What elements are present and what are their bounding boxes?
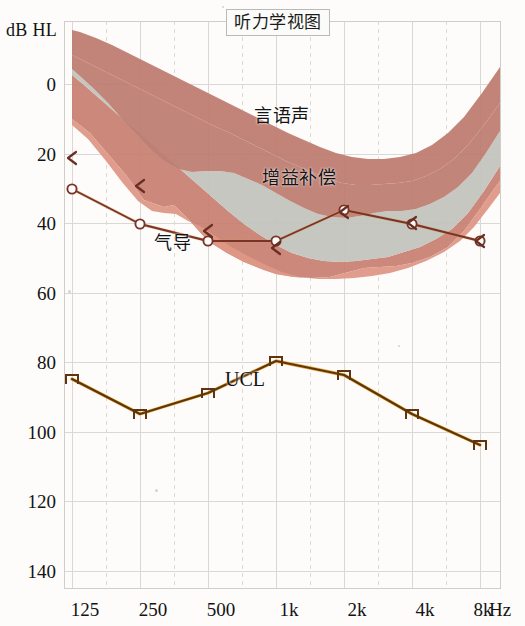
y-tick: 20 <box>4 145 56 164</box>
x-axis-unit-label: Hz <box>489 600 511 619</box>
x-tick: 1k <box>280 600 299 619</box>
audiogram-figure: 言语声 增益补偿 气导 UCL 听力学视图 dB HL 0 20 40 60 8… <box>0 0 525 626</box>
x-tick: 4k <box>416 600 435 619</box>
y-tick: 40 <box>4 214 56 233</box>
y-tick: 140 <box>4 562 56 581</box>
scan-speckle <box>155 489 158 492</box>
y-tick: 80 <box>4 353 56 372</box>
annotation-gain-compensation: 增益补偿 <box>262 163 336 189</box>
x-tick: 250 <box>139 600 168 619</box>
x-tick: 125 <box>71 600 100 619</box>
y-tick: 60 <box>4 284 56 303</box>
x-tick: 2k <box>348 600 367 619</box>
y-tick: 120 <box>4 492 56 511</box>
x-tick: 500 <box>207 600 236 619</box>
scan-speckle <box>68 290 71 293</box>
chart-title: 听力学视图 <box>226 9 330 36</box>
annotation-ucl: UCL <box>225 368 265 391</box>
scan-speckle <box>398 345 400 347</box>
y-axis-ticks: 0 20 40 60 80 100 120 140 <box>0 0 56 626</box>
y-tick: 0 <box>4 75 56 94</box>
y-tick: 100 <box>4 423 56 442</box>
annotation-speech-band: 言语声 <box>254 101 310 127</box>
annotation-air-conduction: 气导 <box>154 228 191 254</box>
plot-area: 言语声 增益补偿 气导 UCL <box>64 21 501 589</box>
scan-speckle <box>222 6 224 8</box>
